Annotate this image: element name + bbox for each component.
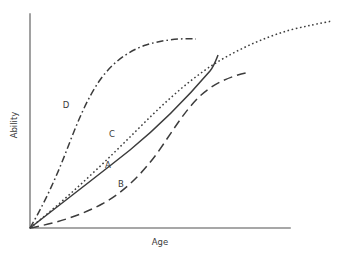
ability-age-line-chart: D C A B Age Ability — [0, 0, 343, 259]
x-axis-title: Age — [152, 237, 168, 247]
chart-background — [0, 0, 343, 259]
series-label-D: D — [63, 100, 70, 110]
series-label-C: C — [109, 129, 115, 139]
series-label-A: A — [105, 160, 111, 170]
y-axis-title: Ability — [9, 112, 19, 139]
series-label-B: B — [118, 179, 124, 189]
chart-figure: D C A B Age Ability — [0, 0, 343, 259]
